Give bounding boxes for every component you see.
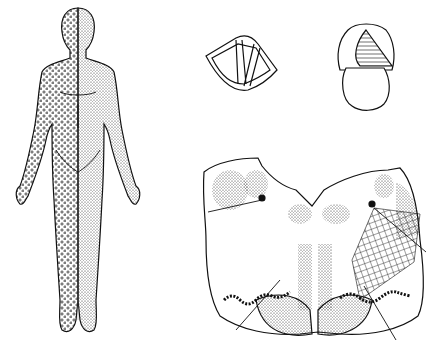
larynx-diagram-left: [206, 36, 277, 90]
body-diagram: [16, 8, 140, 332]
medical-figure: [0, 0, 437, 352]
larynx-diagram-right: [338, 24, 394, 110]
brainstem-section-diagram: [203, 158, 426, 340]
